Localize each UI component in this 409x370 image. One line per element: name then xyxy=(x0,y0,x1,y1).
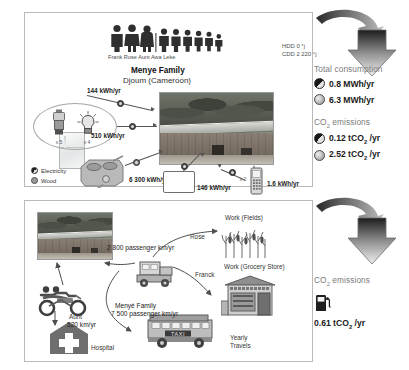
phone-arrowhead-icon xyxy=(216,162,221,167)
house-photo xyxy=(159,92,274,165)
people-silhouettes-icon xyxy=(108,23,230,53)
wood-stove-icon xyxy=(79,155,125,188)
lighting-connector xyxy=(117,126,157,127)
stove-node-wood-icon xyxy=(133,159,140,166)
phone-value: 1.6 kWh/yr xyxy=(267,180,299,187)
phone-node-electricity-icon xyxy=(229,169,236,176)
bulb-count: x 4 xyxy=(77,139,97,145)
electricity-icon xyxy=(31,167,38,174)
electricity-icon xyxy=(314,78,325,89)
refrigerator-value: 144 kWh/yr xyxy=(87,87,121,94)
wood-icon xyxy=(314,94,325,105)
legend-label-wood: Wood xyxy=(41,178,56,184)
result-row-electricity-consumption: 0.8 MWh/yr xyxy=(314,78,408,89)
result-row-wood-consumption: 6.3 MWh/yr xyxy=(314,94,408,105)
mobility-emissions-value: 0.61 tCO2 /yr xyxy=(314,318,408,330)
television-icon xyxy=(163,171,195,193)
energy-panel: Frank Rose Aunt Awa Leke Menye Family Dj… xyxy=(24,12,313,187)
infographic-canvas: Frank Rose Aunt Awa Leke Menye Family Dj… xyxy=(0,0,409,370)
wood-consumption-value: 6.3 MWh/yr xyxy=(329,95,374,105)
family-people-group xyxy=(108,23,230,53)
result-row-electricity-emissions: 0.12 tCO2 /yr xyxy=(314,133,408,145)
family-name: Menye Family xyxy=(131,66,185,75)
total-consumption-title: Total consumption xyxy=(314,64,408,74)
electricity-emissions-value: 0.12 tCO2 /yr xyxy=(329,133,380,145)
lighting-value: 510 kWh/yr xyxy=(91,132,125,139)
wood-icon xyxy=(31,177,38,184)
mobility-result-arrow-icon xyxy=(312,196,402,268)
fridge-node-electricity-icon xyxy=(117,100,124,107)
tv-node-electricity-icon xyxy=(181,163,188,170)
electricity-consumption-value: 0.8 MWh/yr xyxy=(329,79,374,89)
fridge-arrowhead-icon xyxy=(151,107,155,111)
wood-emissions-value: 2.52 tCO2 /yr xyxy=(329,149,380,161)
co2-emissions-title-mobility: CO2 emissions xyxy=(314,275,408,287)
mobility-flow-arrows xyxy=(25,201,314,363)
mobility-panel: Work (Fields) Work (Grocery Store) xyxy=(24,200,313,362)
electricity-icon xyxy=(314,133,325,144)
legend-label-electricity: Electricity xyxy=(41,168,66,174)
co2-emissions-title-energy: CO2 emissions xyxy=(314,117,408,129)
lighting-node-electricity-icon xyxy=(129,123,136,130)
wood-icon xyxy=(314,150,325,161)
mobility-results-rail: CO2 emissions 0.61 tCO2 /yr xyxy=(314,275,408,329)
energy-legend: Electricity Wood xyxy=(31,167,66,184)
fuel-pump-icon xyxy=(315,294,331,312)
lantern-count: x 5 xyxy=(49,139,69,145)
mobile-phone-icon xyxy=(249,165,264,195)
television-value: 146 kWh/yr xyxy=(197,184,231,191)
lighting-arrowhead-icon xyxy=(153,123,157,127)
energy-results-rail: Total consumption 0.8 MWh/yr 6.3 MWh/yr … xyxy=(314,64,408,166)
lantern-icon xyxy=(51,109,67,136)
result-row-wood-emissions: 2.52 tCO2 /yr xyxy=(314,149,408,161)
lighting-group xyxy=(33,103,117,150)
family-location: Djoum (Cameroon) xyxy=(123,76,191,85)
stove-connector xyxy=(125,151,163,166)
family-people-names: Frank Rose Aunt Awa Leke xyxy=(108,54,238,60)
